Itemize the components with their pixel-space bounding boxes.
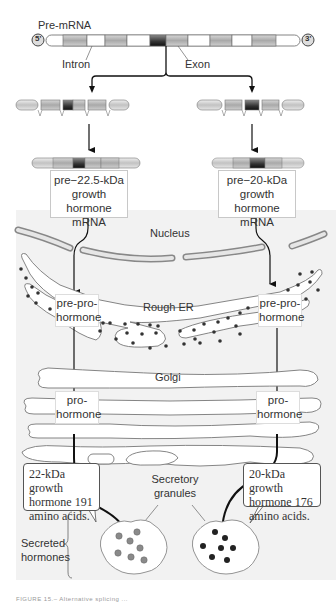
right-splicing-intermediate [197,100,304,116]
right-product-line-1: 20-kDa growth [249,467,315,495]
exon-label: Exon [185,58,210,70]
left-er-line-2: hormone [56,310,98,324]
left-mrna-box: pre−22.5-kDa growth hormone mRNA [50,170,128,218]
left-splicing-intermediate [16,100,129,116]
secretory-granules-label: Secretory granules [148,472,202,500]
secreted-line-1: Secreted [21,536,70,550]
right-mrna-line-1: pre−20-kDa [219,173,295,187]
right-product-box: 20-kDa growth hormone 176 amino acids. [243,463,321,507]
left-product-line-2: hormone 191 [29,495,94,509]
secreted-line-2: hormones [21,550,70,564]
left-golgi-line-2: hormone [56,407,98,421]
right-mrna-box: pre−20-kDa growth hormone mRNA [218,170,296,218]
arrowhead-icon [249,86,255,93]
arrowhead-icon [89,86,95,93]
right-golgi-line-2: hormone [257,407,299,421]
right-mature-mrna [212,158,304,168]
left-product-line-1: 22-kDa growth [29,467,94,495]
premrna-label: Pre-mRNA [38,19,91,31]
rough-er-label: Rough ER [143,301,194,313]
left-golgi-line-1: pro- [56,393,98,407]
right-mrna-line-3: mRNA [219,215,295,229]
granules-line-2: granules [148,486,202,500]
right-golgi-line-1: pro- [257,393,299,407]
right-er-line-1: pre-pro- [259,296,301,310]
premrna-strand [32,34,314,46]
right-product-line-3: amino acids. [249,509,315,523]
right-er-line-2: hormone [259,310,301,324]
five-prime-label: 5' [35,34,41,43]
left-mrna-line-3: mRNA [51,215,127,229]
left-golgi-box: pro- hormone [55,391,99,424]
left-mrna-line-1: pre−22.5-kDa [51,173,127,187]
right-golgi-box: pro- hormone [256,391,300,424]
right-product-line-2: hormone 176 [249,495,315,509]
left-mature-mrna [32,158,140,168]
right-mrna-line-2: growth hormone [219,187,295,215]
intron-label: Intron [62,58,90,70]
left-er-line-1: pre-pro- [56,296,98,310]
left-product-line-3: amino acids. [29,509,94,523]
three-prime-label: 3' [305,34,311,43]
granules-line-1: Secretory [148,472,202,486]
left-mrna-line-2: growth hormone [51,187,127,215]
secreted-hormones-label: Secreted hormones [21,536,70,564]
left-er-box: pre-pro- hormone [55,294,99,327]
figure-caption: FIGURE 15.– Alternative splicing ... [16,596,128,602]
golgi-label: Golgi [155,371,181,383]
left-product-box: 22-kDa growth hormone 191 amino acids. [23,463,100,511]
nucleus-label: Nucleus [150,227,190,239]
right-er-box: pre-pro- hormone [258,294,302,327]
splicing-branch-arrow [92,46,252,88]
